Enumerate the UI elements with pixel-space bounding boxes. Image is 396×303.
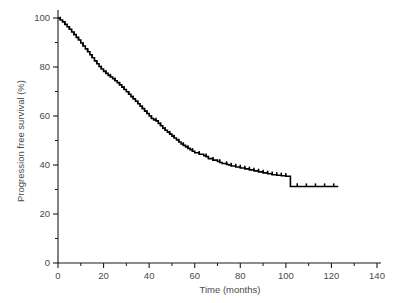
y-tick-label: 40 [39, 159, 50, 170]
x-tick-label: 100 [278, 270, 294, 281]
x-tick-label: 20 [98, 270, 109, 281]
y-tick-label: 80 [39, 61, 50, 72]
x-tick-label: 40 [144, 270, 155, 281]
chart-background [0, 0, 396, 303]
y-axis-title: Progression free survival (%) [15, 80, 26, 202]
y-tick-label: 20 [39, 208, 50, 219]
kaplan-meier-chart: 020406080100 020406080100120140 Time (mo… [0, 0, 396, 303]
x-tick-label: 60 [189, 270, 200, 281]
x-tick-label: 80 [235, 270, 246, 281]
x-tick-label: 120 [323, 270, 339, 281]
chart-canvas: 020406080100 020406080100120140 Time (mo… [0, 0, 396, 303]
y-tick-label: 100 [34, 12, 50, 23]
y-tick-label: 60 [39, 110, 50, 121]
y-tick-label: 0 [45, 257, 50, 268]
x-tick-label: 140 [369, 270, 385, 281]
x-tick-label: 0 [55, 270, 60, 281]
x-axis-title: Time (months) [200, 284, 261, 295]
